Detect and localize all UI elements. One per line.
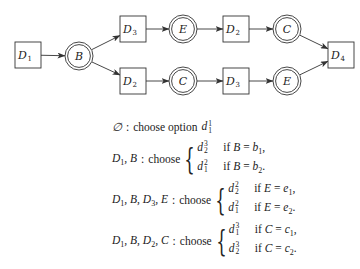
case-option: d21 bbox=[228, 200, 254, 219]
rule-sep: : bbox=[173, 235, 176, 247]
rule-empty: ∅ : choose option d 1 1 bbox=[112, 120, 212, 134]
rule-text: choose bbox=[148, 153, 180, 165]
option-subscript: 1 bbox=[208, 127, 212, 134]
rule-lhs: D1, B, D2, C bbox=[112, 234, 169, 249]
rule-d1-b-d2-c: D1, B, D2, C:choose{d31if C = c1,d32if C… bbox=[112, 222, 297, 261]
case-option: d32 bbox=[229, 241, 255, 260]
rule-lhs: D1, B bbox=[112, 152, 137, 167]
rule-sep: : bbox=[141, 153, 144, 165]
rule-case: d32if C = c2. bbox=[229, 241, 297, 260]
left-brace-icon: { bbox=[215, 185, 226, 215]
decision-rules: ∅ : choose option d 1 1 D1, B:choose{d32… bbox=[0, 0, 360, 269]
rule-empty-lhs: ∅ bbox=[112, 120, 122, 134]
rule-case: d21if B = b2. bbox=[197, 159, 265, 178]
rule-case: d31if C = c1, bbox=[229, 222, 297, 241]
rule-text: choose bbox=[180, 235, 212, 247]
case-condition: if E = e2. bbox=[254, 200, 295, 219]
rule-text: choose bbox=[179, 194, 211, 206]
case-option: d21 bbox=[197, 159, 223, 178]
rule-sep: : bbox=[126, 121, 129, 133]
case-condition: if C = c1, bbox=[255, 222, 297, 241]
left-brace-icon: { bbox=[216, 226, 227, 256]
option-symbol: d bbox=[201, 120, 207, 132]
rule-d1-b: D1, B:choose{d32if B = b1,d21if B = b2. bbox=[112, 140, 265, 179]
case-option: d31 bbox=[229, 222, 255, 241]
rule-d1-b-d3-e: D1, B, D3, E:choose{d22if E = e1,d21if E… bbox=[112, 181, 295, 220]
rule-case: d22if E = e1, bbox=[228, 181, 295, 200]
rule-cases: d22if E = e1,d21if E = e2. bbox=[228, 181, 295, 220]
case-condition: if B = b2. bbox=[223, 159, 265, 178]
case-option: d32 bbox=[197, 140, 223, 159]
case-condition: if C = c2. bbox=[255, 241, 297, 260]
rule-empty-text: choose option bbox=[133, 121, 197, 133]
rule-cases: d32if B = b1,d21if B = b2. bbox=[197, 140, 265, 179]
option-scripts: 1 1 bbox=[208, 120, 212, 134]
rule-lhs: D1, B, D3, E bbox=[112, 193, 168, 208]
case-option: d22 bbox=[228, 181, 254, 200]
rule-case: d21if E = e2. bbox=[228, 200, 295, 219]
left-brace-icon: { bbox=[185, 144, 196, 174]
rule-cases: d31if C = c1,d32if C = c2. bbox=[229, 222, 297, 261]
case-condition: if E = e1, bbox=[254, 181, 295, 200]
rule-sep: : bbox=[172, 194, 175, 206]
case-condition: if B = b1, bbox=[223, 140, 265, 159]
rule-empty-option: d 1 1 bbox=[201, 120, 212, 134]
rule-case: d32if B = b1, bbox=[197, 140, 265, 159]
